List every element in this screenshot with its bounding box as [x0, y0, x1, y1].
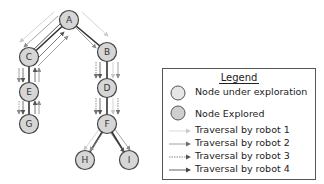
- legend-item-node-under-exploration: Node under exploration: [163, 85, 315, 101]
- node-D: D: [98, 79, 117, 98]
- node-E: E: [20, 83, 39, 102]
- svg-text:G: G: [26, 119, 33, 129]
- arrow-robot-4-icon: [167, 162, 193, 178]
- svg-text:A: A: [66, 15, 73, 25]
- legend-item-robot-4: Traversal by robot 4: [163, 162, 315, 178]
- traversal-arrows-F-I: [111, 128, 130, 152]
- svg-text:D: D: [104, 83, 111, 93]
- legend-item-node-explored: Node Explored: [163, 105, 315, 121]
- svg-text:I: I: [128, 155, 131, 165]
- node-I: I: [120, 151, 139, 170]
- node-G: G: [20, 115, 39, 134]
- node-A: A: [60, 11, 79, 30]
- legend-title: Legend: [219, 72, 260, 84]
- circle-light-icon: [167, 85, 193, 101]
- node-H: H: [76, 151, 95, 170]
- node-C: C: [20, 48, 39, 67]
- node-B: B: [98, 43, 117, 62]
- circle-gray-icon: [167, 105, 193, 121]
- svg-text:C: C: [26, 52, 32, 62]
- svg-text:H: H: [82, 155, 89, 165]
- legend-box: Legend Node under exploration Node Explo…: [162, 68, 316, 180]
- node-F: F: [98, 115, 117, 134]
- svg-text:B: B: [104, 47, 110, 57]
- svg-text:F: F: [104, 119, 109, 129]
- svg-text:E: E: [26, 87, 32, 97]
